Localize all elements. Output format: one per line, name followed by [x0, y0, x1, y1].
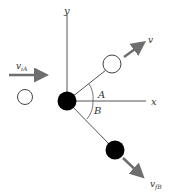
incoming-velocity-label: viA	[16, 61, 28, 72]
ball-a-velocity-arrow	[124, 44, 142, 57]
x-axis-label: x	[151, 96, 157, 107]
ball-b-velocity-label: vfB	[150, 179, 162, 191]
angle-arc-b	[87, 101, 93, 119]
target-ball-at-collision	[58, 92, 77, 111]
angle-arc-a	[89, 84, 93, 101]
collision-diagram: y x A B viA v vfB	[0, 0, 169, 194]
angle-label-a: A	[97, 89, 105, 100]
ball-a-velocity-label: v	[148, 35, 153, 45]
ball-b-after	[106, 141, 125, 160]
ball-b-velocity-arrow	[123, 158, 141, 175]
y-axis-label: y	[63, 5, 70, 16]
ball-a-after	[103, 55, 121, 73]
angle-label-b: B	[93, 105, 101, 116]
incoming-ball	[18, 90, 33, 105]
